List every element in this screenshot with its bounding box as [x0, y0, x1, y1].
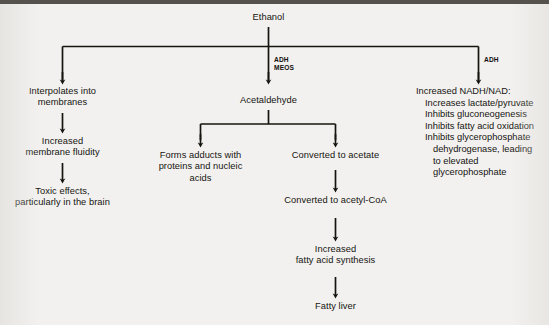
enzyme-label-middle: ADH MEOS: [274, 56, 314, 72]
nadh-item-3-text: Inhibits glycerophosphate: [425, 132, 530, 142]
nadh-head: Increased NADH/NAD:: [416, 86, 547, 98]
node-interpolates-into-membranes: Interpolates into membranes: [8, 86, 118, 109]
diagram-page: Ethanol ADH MEOS ADH Interpolates into m…: [0, 0, 549, 325]
node-converted-to-acetate: Converted to acetate: [281, 150, 391, 161]
nadh-item-1: Inhibits gluconeogenesis: [416, 109, 547, 121]
node-toxic-effects: Toxic effects, particularly in the brain: [0, 186, 125, 209]
node-forms-adducts: Forms adducts with proteins and nucleic …: [146, 150, 256, 184]
node-ethanol: Ethanol: [229, 12, 309, 23]
node-increased-membrane-fluidity: Increased membrane fluidity: [3, 136, 123, 159]
nadh-item-2: Inhibits fatty acid oxidation: [416, 121, 547, 133]
nadh-item-3-cont-2: glycerophosphate: [425, 167, 547, 179]
nadh-item-3-cont-1: to elevated: [425, 156, 547, 168]
node-converted-to-acetyl-coa: Converted to acetyl-CoA: [273, 195, 399, 206]
nadh-item-3: Inhibits glycerophosphate dehydrogenase,…: [416, 132, 547, 178]
node-fatty-liver: Fatty liver: [297, 301, 375, 312]
node-acetaldehyde: Acetaldehyde: [224, 95, 314, 106]
enzyme-label-right: ADH: [484, 56, 524, 64]
node-increased-fatty-acid-synthesis: Increased fatty acid synthesis: [280, 244, 392, 267]
node-increased-nadh-nad: Increased NADH/NAD: Increases lactate/py…: [416, 86, 547, 179]
nadh-item-3-cont-0: dehydrogenase, leading: [425, 144, 547, 156]
nadh-item-0: Increases lactate/pyruvate: [416, 98, 547, 110]
